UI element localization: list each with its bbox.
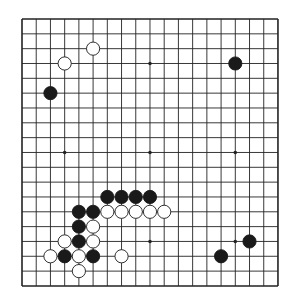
black-stone (87, 250, 100, 263)
black-stone (229, 57, 242, 70)
black-stone (87, 205, 100, 218)
go-board[interactable] (0, 0, 294, 305)
black-stone (72, 235, 85, 248)
white-stone (143, 205, 156, 218)
white-stone (87, 42, 100, 55)
black-stone (214, 250, 227, 263)
black-stone (72, 205, 85, 218)
black-stone (129, 190, 142, 203)
black-stone (143, 190, 156, 203)
white-stone (58, 57, 71, 70)
star-point (148, 240, 152, 244)
star-point (148, 62, 152, 66)
star-point (234, 240, 238, 244)
white-stone (101, 205, 114, 218)
white-stone (72, 265, 85, 278)
white-stone (87, 220, 100, 233)
white-stone (115, 250, 128, 263)
black-stone (72, 220, 85, 233)
white-stone (58, 235, 71, 248)
black-stone (115, 190, 128, 203)
black-stone (58, 250, 71, 263)
white-stone (115, 205, 128, 218)
star-point (234, 151, 238, 155)
star-point (148, 151, 152, 155)
white-stone (72, 250, 85, 263)
black-stone (243, 235, 256, 248)
white-stone (158, 205, 171, 218)
black-stone (44, 87, 57, 100)
white-stone (87, 235, 100, 248)
star-point (63, 151, 67, 155)
white-stone (129, 205, 142, 218)
black-stone (101, 190, 114, 203)
white-stone (44, 250, 57, 263)
